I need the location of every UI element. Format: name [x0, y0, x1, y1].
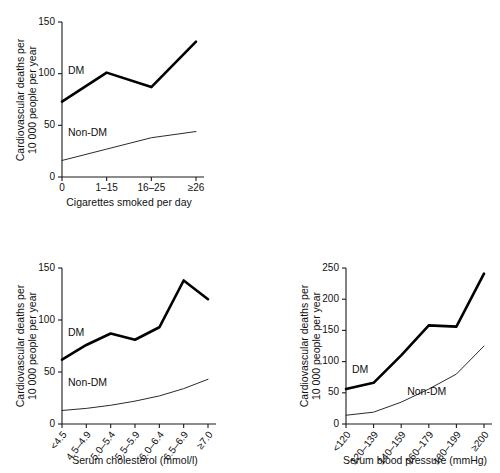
x-tick-label: 16–25 — [137, 182, 165, 193]
y-axis-title-line: 10 000 people per year — [310, 291, 322, 400]
series-annotation-dm: DM — [68, 64, 84, 76]
series-line-nondm — [346, 346, 484, 415]
y-tick-label: 50 — [44, 366, 56, 377]
figure-cardiovascular-deaths: 05010015001–1516–25≥26Cigarettes smoked … — [0, 0, 500, 473]
y-tick-label: 0 — [333, 418, 339, 429]
y-tick-label: 100 — [38, 314, 55, 325]
series-annotation-nondm: Non-DM — [68, 376, 107, 388]
y-axis-title-line: 10 000 people per year — [26, 45, 38, 154]
y-axis-title-line: Cardiovascular deaths per — [298, 284, 310, 407]
chart-bloodpressure: 050100150200250<120120–139140–159160–179… — [298, 262, 492, 467]
series-annotation-nondm: Non-DM — [407, 385, 446, 397]
x-tick-label: <120 — [330, 429, 353, 454]
x-tick-label: ≥7.0 — [194, 429, 215, 451]
series-line-dm — [62, 280, 208, 359]
y-tick-label: 100 — [38, 67, 55, 78]
x-tick-label: 0 — [59, 182, 65, 193]
x-tick-label: 1–15 — [96, 182, 119, 193]
y-tick-label: 0 — [49, 171, 55, 182]
chart-svg-smoking: 05010015001–1516–25≥26Cigarettes smoked … — [0, 0, 250, 215]
chart-svg-cholesterol: 050100150<4.54.5–4.95.0–5.45.5–5.96.0–6.… — [0, 228, 260, 473]
chart-panel-smoking: 05010015001–1516–25≥26Cigarettes smoked … — [0, 0, 250, 215]
y-axis-title-line: Cardiovascular deaths per — [14, 284, 26, 407]
chart-panel-cholesterol: 050100150<4.54.5–4.95.0–5.45.5–5.96.0–6.… — [0, 228, 260, 473]
x-axis-title: Serum blood pressure (mmHg) — [343, 454, 487, 466]
y-tick-label: 50 — [44, 119, 56, 130]
y-tick-label: 100 — [322, 355, 339, 366]
chart-svg-bloodpressure: 050100150200250<120120–139140–159160–179… — [288, 228, 500, 473]
y-tick-label: 50 — [328, 386, 340, 397]
series-annotation-dm: DM — [352, 363, 368, 375]
x-tick-label: <4.5 — [48, 429, 69, 452]
x-tick-label: ≥200 — [468, 429, 491, 454]
y-tick-label: 150 — [38, 262, 55, 273]
x-axis-title: Cigarettes smoked per day — [66, 196, 192, 208]
chart-smoking: 05010015001–1516–25≥26Cigarettes smoked … — [14, 16, 205, 208]
x-axis-title: Serum cholesterol (mmol/l) — [72, 454, 197, 466]
chart-cholesterol: 050100150<4.54.5–4.95.0–5.45.5–5.96.0–6.… — [14, 262, 216, 466]
y-axis-title-line: 10 000 people per year — [26, 291, 38, 400]
y-tick-label: 0 — [49, 418, 55, 429]
chart-panel-bloodpressure: 050100150200250<120120–139140–159160–179… — [288, 228, 500, 473]
y-tick-label: 200 — [322, 293, 339, 304]
series-annotation-dm: DM — [68, 326, 84, 338]
series-annotation-nondm: Non-DM — [68, 126, 107, 138]
y-axis-title-line: Cardiovascular deaths per — [14, 38, 26, 161]
y-tick-label: 150 — [322, 324, 339, 335]
y-tick-label: 150 — [38, 16, 55, 27]
x-tick-label: ≥26 — [188, 182, 205, 193]
y-tick-label: 250 — [322, 262, 339, 273]
